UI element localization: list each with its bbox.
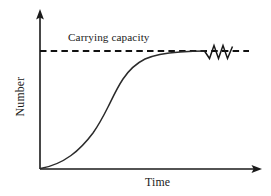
population-fluctuation-zigzag xyxy=(205,46,233,59)
population-growth-curve xyxy=(41,51,206,169)
figure-canvas xyxy=(0,0,271,196)
y-axis-label: Number xyxy=(13,68,28,126)
y-axis xyxy=(36,9,44,169)
logistic-growth-figure: Carrying capacity Time Number xyxy=(0,0,271,196)
x-axis xyxy=(40,165,262,173)
x-axis-label: Time xyxy=(145,175,170,190)
carrying-capacity-label: Carrying capacity xyxy=(68,31,150,43)
